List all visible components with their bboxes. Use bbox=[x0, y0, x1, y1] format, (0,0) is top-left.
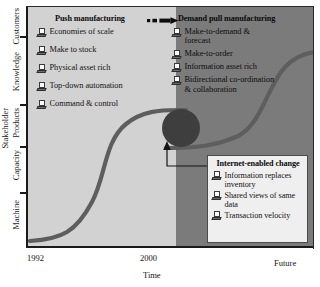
computer-icon bbox=[37, 100, 46, 109]
push-manufacturing-list: Economies of scale Make to stock Physica… bbox=[37, 27, 157, 117]
list-item: Information replaces inventory bbox=[212, 171, 304, 190]
list-item: Top-down automation bbox=[37, 81, 157, 91]
y-tick-label-customers: Customers bbox=[12, 8, 21, 44]
plot-frame-top-edge bbox=[26, 6, 314, 7]
list-item-label: Transaction velocity bbox=[225, 211, 291, 220]
x-tick-label-end: Future bbox=[274, 258, 296, 268]
figure-canvas: Stakeholder Customers Knowledge Products… bbox=[0, 0, 320, 287]
computer-icon bbox=[37, 46, 46, 55]
computer-icon bbox=[37, 64, 46, 73]
list-item: Command & control bbox=[37, 99, 157, 109]
push-manufacturing-header: Push manufacturing bbox=[55, 14, 125, 23]
computer-icon bbox=[212, 211, 221, 220]
list-item-label: Make-to-demand & forecast bbox=[185, 27, 277, 46]
list-item: Economies of scale bbox=[37, 27, 157, 37]
dashed-arrow-icon bbox=[147, 17, 179, 24]
list-item: Transaction velocity bbox=[212, 211, 304, 221]
list-item: Make to stock bbox=[37, 45, 157, 55]
plot-frame-right-edge bbox=[313, 6, 314, 249]
list-item-label: Make to stock bbox=[50, 45, 97, 54]
list-item: Shared views of same data bbox=[212, 191, 304, 210]
list-item-label: Command & control bbox=[50, 99, 118, 108]
computer-icon bbox=[212, 171, 221, 180]
computer-icon bbox=[212, 191, 221, 200]
callout-title: Internet-enabled change bbox=[212, 159, 304, 169]
computer-icon bbox=[37, 28, 46, 37]
y-tick-label-knowledge: Knowledge bbox=[12, 52, 21, 91]
x-tick-label-middle: 2000 bbox=[140, 253, 157, 263]
x-axis-title: Time bbox=[143, 270, 161, 280]
list-item: Make-to-demand & forecast bbox=[172, 27, 276, 46]
list-item-label: Physical asset rich bbox=[50, 63, 111, 72]
computer-icon bbox=[172, 63, 181, 72]
y-axis-title: Stakeholder bbox=[1, 108, 10, 149]
computer-icon bbox=[37, 82, 46, 91]
computer-icon bbox=[172, 50, 181, 59]
computer-icon bbox=[172, 28, 181, 37]
y-tick-label-capacity: Capacity bbox=[12, 150, 21, 180]
y-tick-label-products: Products bbox=[12, 108, 21, 138]
y-tick-label-machine: Machine bbox=[12, 200, 21, 230]
list-item-label: Top-down automation bbox=[50, 81, 123, 90]
list-item: Information asset rich bbox=[172, 62, 276, 72]
computer-icon bbox=[172, 76, 181, 85]
list-item-label: Shared views of same data bbox=[225, 191, 305, 210]
x-tick-label-start: 1992 bbox=[27, 253, 44, 263]
demand-pull-manufacturing-list: Make-to-demand & forecast Make-to-order … bbox=[172, 27, 276, 98]
list-item: Physical asset rich bbox=[37, 63, 157, 73]
list-item-label: Information asset rich bbox=[185, 62, 257, 71]
list-item-label: Information replaces inventory bbox=[225, 171, 305, 190]
list-item-label: Bidirectional co-ordination & collaborat… bbox=[185, 75, 277, 94]
list-item: Make-to-order bbox=[172, 49, 276, 59]
internet-enabled-change-callout: Internet-enabled change Information repl… bbox=[207, 155, 308, 243]
list-item: Bidirectional co-ordination & collaborat… bbox=[172, 75, 276, 94]
list-item-label: Make-to-order bbox=[185, 49, 233, 58]
list-item-label: Economies of scale bbox=[50, 27, 114, 36]
demand-pull-manufacturing-header: Demand pull manufacturing bbox=[178, 14, 275, 23]
